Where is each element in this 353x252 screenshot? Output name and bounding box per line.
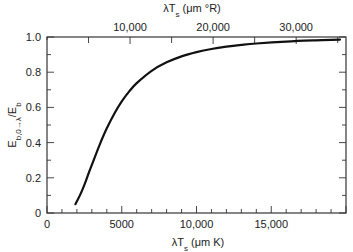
x-tick-label-bottom: 15,000 <box>254 218 288 230</box>
y-tick-label: 0.6 <box>26 101 41 113</box>
y-tick-label: 0.2 <box>26 172 41 184</box>
x-tick-label-top: 30,000 <box>279 21 313 33</box>
x-tick-label-bottom: 0 <box>44 218 50 230</box>
x-tick-label-top: 20,000 <box>196 21 230 33</box>
chart: 0500010,00015,00010,00020,00030,00000.20… <box>0 0 353 252</box>
axis-ticks <box>47 37 346 213</box>
plot-frame <box>47 37 346 213</box>
x-tick-label-top: 10,000 <box>113 21 147 33</box>
y-tick-label: 0.4 <box>26 137 41 149</box>
data-line <box>75 40 340 205</box>
tick-labels: 0500010,00015,00010,00020,00030,00000.20… <box>26 21 313 230</box>
y-tick-label: 1.0 <box>26 31 41 43</box>
x-axis-title-bottom: λTs (μm K) <box>172 236 225 252</box>
y-tick-label: 0 <box>35 207 41 219</box>
x-tick-label-bottom: 5000 <box>110 218 134 230</box>
x-axis-title-top: λTs (μm °R) <box>163 2 221 19</box>
plot-border <box>47 37 346 213</box>
y-axis-title: Eb,0→λ/Eb <box>6 102 23 148</box>
x-tick-label-bottom: 10,000 <box>180 218 214 230</box>
y-tick-label: 0.8 <box>26 66 41 78</box>
